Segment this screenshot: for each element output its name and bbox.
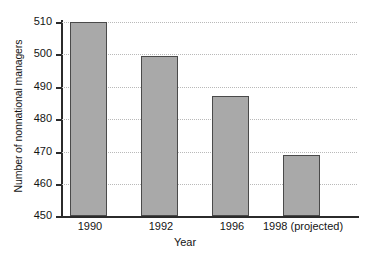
x-tick-label-1998-projected: 1998 (projected) [253, 220, 353, 232]
y-tick-label-480: 480 [10, 112, 52, 124]
y-tick-label-500: 500 [10, 47, 52, 59]
bar-1998-projected [283, 155, 320, 216]
bar-1992 [141, 56, 178, 216]
x-axis-title: Year [0, 236, 370, 248]
bar-1996 [212, 96, 249, 216]
plot-area [62, 22, 357, 216]
y-tick-label-510: 510 [10, 15, 52, 27]
gridline-row-450: 450 [0, 216, 370, 217]
y-tick-label-470: 470 [10, 145, 52, 157]
y-tick-mark-450 [56, 216, 62, 218]
bar-1990 [70, 22, 107, 216]
y-tick-label-460: 460 [10, 177, 52, 189]
bar-chart-figure: Number of nonnational managers 510 500 4… [0, 0, 370, 260]
gridline-450 [62, 216, 357, 217]
y-tick-label-490: 490 [10, 80, 52, 92]
